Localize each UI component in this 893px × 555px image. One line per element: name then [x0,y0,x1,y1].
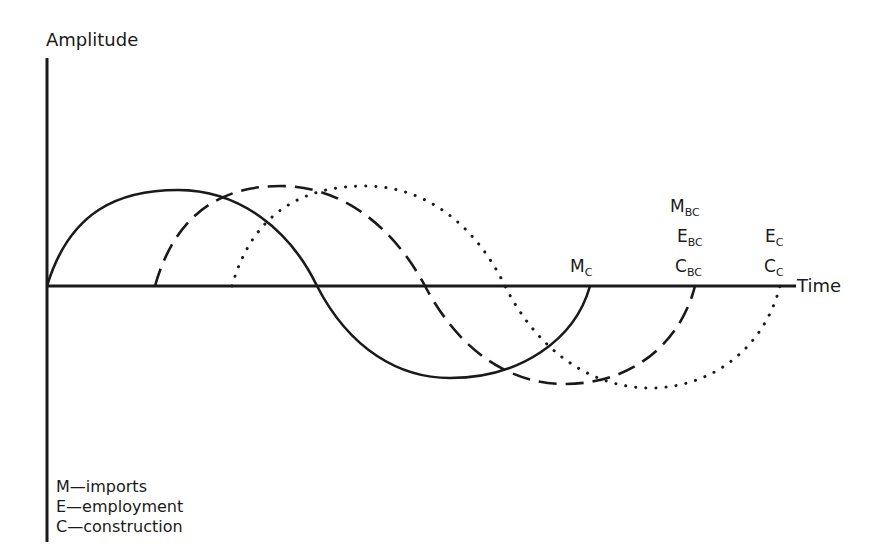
label-cc: CC [764,258,784,275]
y-axis-label: Amplitude [46,31,138,49]
label-cbc: CBC [675,258,702,275]
label-ebc: EBC [677,228,703,245]
legend: M—imports E—employment C—construction [56,477,183,537]
imports-curve [47,190,590,378]
label-mbc: MBC [670,198,700,215]
label-ec: EC [765,228,783,245]
diagram-canvas [0,0,893,555]
legend-item-construction: C—construction [56,517,183,537]
legend-item-employment: E—employment [56,497,183,517]
label-mc: MC [570,258,592,275]
legend-item-imports: M—imports [56,477,183,497]
x-axis-label: Time [797,277,841,295]
